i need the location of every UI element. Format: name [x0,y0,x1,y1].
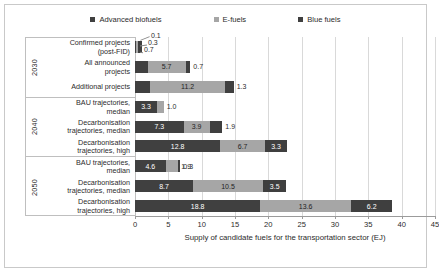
category-label-column: Confirmed projects(post-FID)All announce… [41,37,135,216]
bar-segment-advanced-biofuels[interactable]: 1.9 [135,61,148,73]
bar-segment-advanced-biofuels[interactable]: 8.7 [135,180,193,192]
category-label-line2: median [76,167,130,176]
category-label-text: Additional projects [71,83,130,92]
bar-value-label: 1.3 [237,83,247,90]
bar-row: 7.33.91.9 [135,121,435,133]
bar-value-label: 3.3 [271,143,281,150]
x-tick-30 [335,216,336,219]
bar-segment-e-fuels[interactable]: 6.7 [220,140,265,152]
bar-value-callout: 0.1 [151,32,161,39]
x-tick-45 [435,216,436,219]
year-group-label: 2040 [30,119,39,136]
x-axis-title: Supply of candidate fuels for the transp… [135,233,435,242]
x-tick-label: 35 [364,220,372,229]
bar-segment-advanced-biofuels[interactable]: 18.8 [135,200,260,212]
bar-segment-advanced-biofuels[interactable]: 7.3 [135,121,184,133]
bar-segment-blue-fuels[interactable]: 0.3 [178,160,180,172]
bar-segment-e-fuels[interactable]: 11.2 [150,81,225,93]
category-label: Decarbonisationtrajectories, high [41,197,135,217]
x-tick-label: 25 [297,220,305,229]
bar-segment-blue-fuels[interactable]: 3.5 [263,180,286,192]
category-label-text: Decarbonisationtrajectories, median [67,179,130,196]
bar-segment-e-fuels[interactable]: 13.6 [260,200,351,212]
bar-value-label: 10.5 [221,183,235,190]
category-label-text: Decarbonisationtrajectories, high [77,139,130,156]
category-label: Additional projects [41,78,135,98]
bar-value-label: 5.7 [162,63,172,70]
category-label-text: Decarbonisationtrajectories, high [77,198,130,215]
x-tick-0 [135,216,136,219]
bar-segment-blue-fuels[interactable]: 0.7 [186,61,191,73]
bar-value-label: 8.7 [159,183,169,190]
year-group-2030: 2030 [26,38,42,98]
x-tick-35 [368,216,369,219]
legend-item[interactable]: Advanced biofuels [90,15,161,24]
bar-value-label: 3.5 [270,183,280,190]
category-label-line2: trajectories, high [77,147,130,156]
x-tick-label: 20 [264,220,272,229]
bar-value-callout: 0.7 [144,46,154,53]
x-tick-5 [168,216,169,219]
legend-swatch-icon [298,17,303,22]
bar-value-label: 18.8 [191,203,205,210]
x-axis-line [135,216,435,217]
bar-value-label: 0.3 [183,163,193,170]
legend-item[interactable]: E-fuels [214,15,247,24]
category-label-line2: trajectories, median [67,187,130,196]
bar-segment-advanced-biofuels[interactable]: 4.6 [135,160,166,172]
x-tick-label: 40 [397,220,405,229]
category-label: Decarbonisationtrajectories, median [41,118,135,138]
legend-label: E-fuels [223,15,247,24]
bar-value-label: 7.3 [154,123,164,130]
bar-row: 1.95.70.7 [135,61,435,73]
year-group-label: 2030 [30,59,39,76]
bar-value-label: 13.6 [299,203,313,210]
bar-segment-e-fuels[interactable]: 1.0 [157,101,164,113]
bar-segment-blue-fuels[interactable]: 3.3 [265,140,287,152]
year-group-label: 2050 [30,179,39,196]
year-group-column: 203020402050 [25,37,41,216]
bar-value-label: 3.9 [192,123,202,130]
legend-swatch-icon [214,17,219,22]
bar-value-callout: 0.3 [148,39,158,46]
bar-segment-e-fuels[interactable]: 5.7 [148,61,186,73]
bar-value-label: 12.8 [171,143,185,150]
bar-value-label: 3.3 [141,103,151,110]
bar-segment-blue-fuels[interactable]: 1.9 [210,121,223,133]
category-label-line2: trajectories, high [77,207,130,216]
legend-item[interactable]: Blue fuels [298,15,340,24]
legend-swatch-icon [90,17,95,22]
x-tick-25 [302,216,303,219]
bar-value-label: 6.2 [367,203,377,210]
x-tick-10 [202,216,203,219]
bar-segment-advanced-biofuels[interactable]: 12.8 [135,140,220,152]
bar-row: 18.813.66.2 [135,200,435,212]
category-label-line2: projects [84,68,130,77]
bar-segment-e-fuels[interactable]: 10.5 [193,180,263,192]
x-tick-label: 15 [231,220,239,229]
bar-segment-blue-fuels[interactable]: 6.2 [351,200,392,212]
category-label-line2: trajectories, median [67,127,130,136]
category-label: Decarbonisationtrajectories, high [41,137,135,157]
bar-segment-e-fuels[interactable]: 3.9 [184,121,210,133]
legend-label: Advanced biofuels [99,15,161,24]
category-label-line2: median [76,108,130,117]
bar-value-label: 0.7 [193,63,203,70]
group-separator [25,156,135,157]
bar-value-label: 1.0 [167,103,177,110]
bar-row: 3.31.0 [135,101,435,113]
category-label-text: Decarbonisationtrajectories, median [67,119,130,136]
group-separator [25,97,135,98]
category-label: Confirmed projects(post-FID) [41,38,135,58]
category-label-line2: (post-FID) [70,48,130,57]
bar-segment-blue-fuels[interactable]: 1.3 [225,81,234,93]
bar-row: 2.311.21.3 [135,81,435,93]
bar-value-label: 4.6 [145,163,155,170]
chart-frame: Advanced biofuelsE-fuelsBlue fuels 20302… [4,4,427,268]
x-tick-label: 45 [431,220,439,229]
bar-value-label: 1.9 [225,123,235,130]
bar-segment-advanced-biofuels[interactable]: 2.3 [135,81,150,93]
bar-segment-advanced-biofuels[interactable]: 3.3 [135,101,157,113]
x-tick-40 [402,216,403,219]
bar-segment-e-fuels[interactable]: 1.9 [166,160,179,172]
